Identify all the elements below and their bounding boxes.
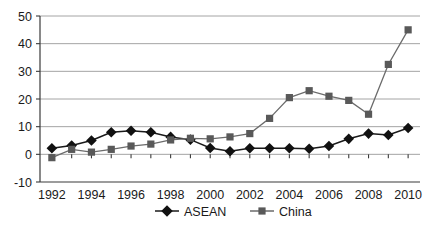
data-point-marker (385, 61, 392, 68)
y-tick-label: 50 (18, 10, 32, 24)
chart-canvas: -1001020304050 1992199419961998200020022… (0, 0, 432, 234)
x-tick-label: 1992 (38, 188, 66, 202)
data-point-marker (187, 135, 194, 142)
data-point-marker (365, 111, 372, 118)
x-tick-label: 2008 (355, 188, 383, 202)
y-tick-label: 0 (25, 148, 32, 162)
data-point-marker (405, 26, 412, 33)
x-tick-label: 2004 (275, 188, 303, 202)
data-point-marker (345, 97, 352, 104)
data-point-marker (48, 154, 55, 161)
data-point-marker (226, 133, 233, 140)
y-tick-label: 10 (18, 120, 32, 134)
data-point-marker (266, 115, 273, 122)
legend-label: ASEAN (184, 205, 226, 219)
data-point-marker (167, 136, 174, 143)
data-point-marker (286, 94, 293, 101)
legend-label: China (279, 205, 312, 219)
data-point-marker (127, 142, 134, 149)
y-tick-label: 30 (18, 65, 32, 79)
x-tick-label: 2000 (196, 188, 224, 202)
data-point-marker (88, 149, 95, 156)
x-tick-label: 1998 (157, 188, 185, 202)
x-tick-label: 2002 (236, 188, 264, 202)
data-point-marker (325, 93, 332, 100)
data-point-marker (147, 140, 154, 147)
data-point-marker (246, 130, 253, 137)
data-point-marker (258, 207, 265, 214)
y-tick-label: 20 (18, 93, 32, 107)
data-point-marker (68, 146, 75, 153)
x-tick-label: 1994 (78, 188, 106, 202)
y-tick-label: 40 (18, 37, 32, 51)
y-tick-label: -10 (14, 176, 32, 190)
data-point-marker (207, 135, 214, 142)
x-tick-label: 2010 (394, 188, 422, 202)
x-tick-label: 1996 (117, 188, 145, 202)
line-chart: -1001020304050 1992199419961998200020022… (0, 0, 432, 234)
data-point-marker (108, 146, 115, 153)
data-point-marker (306, 87, 313, 94)
x-tick-label: 2006 (315, 188, 343, 202)
